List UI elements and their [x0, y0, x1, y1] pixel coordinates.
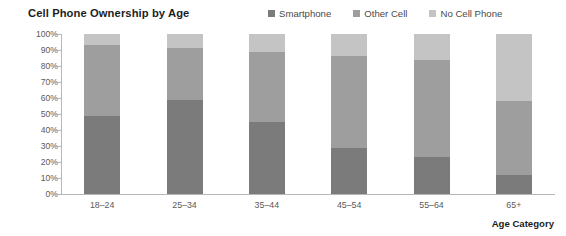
chart-legend: Smartphone Other Cell No Cell Phone	[268, 8, 502, 19]
bar-group	[331, 34, 367, 194]
legend-swatch-icon	[268, 10, 275, 17]
x-tick-label: 25–34	[172, 200, 196, 210]
legend-item-smartphone[interactable]: Smartphone	[268, 8, 331, 19]
x-axis-line	[61, 194, 555, 195]
bar-segment[interactable]	[167, 34, 203, 48]
x-tick-label: 18–24	[90, 200, 114, 210]
legend-label: Smartphone	[279, 8, 331, 19]
legend-item-other-cell[interactable]: Other Cell	[353, 8, 407, 19]
bar-segment[interactable]	[167, 100, 203, 194]
plot-area: 0%10%20%30%40%50%60%70%80%90%100% 18–242…	[0, 28, 566, 236]
chart-container: Cell Phone Ownership by Age Smartphone O…	[0, 0, 566, 236]
bar-segment[interactable]	[414, 157, 450, 194]
bar-segment[interactable]	[249, 52, 285, 122]
bar-group	[414, 34, 450, 194]
bar-stack[interactable]	[496, 34, 532, 194]
bar-segment[interactable]	[249, 122, 285, 194]
bar-segment[interactable]	[496, 175, 532, 194]
legend-label: Other Cell	[364, 8, 407, 19]
bar-group	[496, 34, 532, 194]
bar-segment[interactable]	[331, 34, 367, 56]
y-axis: 0%10%20%30%40%50%60%70%80%90%100%	[22, 34, 58, 194]
bar-segment[interactable]	[167, 48, 203, 99]
bar-segment[interactable]	[496, 34, 532, 101]
x-tick-label: 65+	[506, 200, 521, 210]
bar-group	[249, 34, 285, 194]
bar-stack[interactable]	[331, 34, 367, 194]
bar-segment[interactable]	[414, 34, 450, 60]
bar-group	[84, 34, 120, 194]
legend-label: No Cell Phone	[440, 8, 502, 19]
legend-swatch-icon	[353, 10, 360, 17]
bars-area	[61, 34, 555, 194]
bar-stack[interactable]	[249, 34, 285, 194]
bar-segment[interactable]	[84, 34, 120, 45]
bar-segment[interactable]	[331, 148, 367, 194]
x-tick-label: 55–64	[419, 200, 443, 210]
chart-header: Cell Phone Ownership by Age Smartphone O…	[0, 0, 566, 28]
bar-segment[interactable]	[84, 116, 120, 194]
legend-swatch-icon	[429, 10, 436, 17]
bar-segment[interactable]	[84, 45, 120, 115]
bar-segment[interactable]	[414, 60, 450, 158]
bar-group	[167, 34, 203, 194]
bar-stack[interactable]	[84, 34, 120, 194]
chart-title: Cell Phone Ownership by Age	[28, 7, 189, 19]
x-tick-label: 35–44	[255, 200, 279, 210]
x-axis-labels: 18–2425–3435–4445–5455–6465+	[61, 198, 555, 214]
bar-segment[interactable]	[496, 101, 532, 175]
bar-segment[interactable]	[249, 34, 285, 52]
legend-item-no-cell-phone[interactable]: No Cell Phone	[429, 8, 502, 19]
bar-stack[interactable]	[167, 34, 203, 194]
x-tick-label: 45–54	[337, 200, 361, 210]
bar-stack[interactable]	[414, 34, 450, 194]
bar-segment[interactable]	[331, 56, 367, 147]
x-axis-title: Age Category	[492, 218, 554, 229]
